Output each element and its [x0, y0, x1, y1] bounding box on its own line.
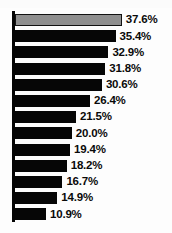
- bar: [15, 208, 46, 220]
- bar: [15, 144, 70, 156]
- bar-value-label: 20.0%: [76, 128, 108, 140]
- bar: [15, 95, 90, 107]
- plot-area: 37.6%35.4%32.9%31.8%30.6%26.4%21.5%20.0%…: [0, 0, 172, 233]
- bar-rows: 37.6%35.4%32.9%31.8%30.6%26.4%21.5%20.0%…: [15, 12, 172, 222]
- bar-highlighted: [15, 14, 122, 26]
- bar-row: 16.7%: [15, 174, 172, 190]
- bar: [15, 192, 57, 204]
- bar: [15, 63, 105, 75]
- bar-value-label: 35.4%: [120, 31, 152, 43]
- bar-value-label: 21.5%: [80, 111, 112, 123]
- bar-row: 20.0%: [15, 125, 172, 141]
- bar-row: 31.8%: [15, 61, 172, 77]
- bar-row: 21.5%: [15, 109, 172, 125]
- bar-value-label: 30.6%: [106, 79, 138, 91]
- bar-row: 14.9%: [15, 190, 172, 206]
- bar-value-label: 26.4%: [94, 95, 126, 107]
- bar-value-label: 37.6%: [126, 14, 158, 26]
- bar-value-label: 19.4%: [74, 144, 106, 156]
- bar: [15, 79, 102, 91]
- bar: [15, 46, 108, 58]
- bar-value-label: 10.9%: [50, 209, 82, 221]
- bar-row: 10.9%: [15, 206, 172, 222]
- bar-value-label: 31.8%: [109, 63, 141, 75]
- bar: [15, 30, 116, 42]
- bar-value-label: 16.7%: [66, 176, 98, 188]
- bar-row: 30.6%: [15, 77, 172, 93]
- bar-row: 19.4%: [15, 142, 172, 158]
- bar-value-label: 18.2%: [71, 160, 103, 172]
- bar-chart: 37.6%35.4%32.9%31.8%30.6%26.4%21.5%20.0%…: [0, 0, 172, 233]
- bar-row: 35.4%: [15, 28, 172, 44]
- bar: [15, 111, 76, 123]
- bar-value-label: 32.9%: [112, 47, 144, 59]
- bar-row: 37.6%: [15, 12, 172, 28]
- bar-value-label: 14.9%: [61, 192, 93, 204]
- bar-row: 18.2%: [15, 158, 172, 174]
- bar-row: 32.9%: [15, 44, 172, 60]
- bar: [15, 127, 72, 139]
- bar: [15, 160, 67, 172]
- bar-row: 26.4%: [15, 93, 172, 109]
- bar: [15, 176, 62, 188]
